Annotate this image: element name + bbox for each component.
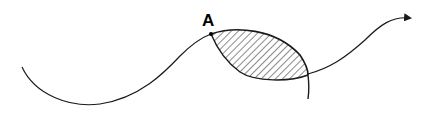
hatched-region — [211, 30, 308, 80]
diagram-canvas: A — [0, 0, 432, 113]
main-curve-right — [308, 18, 410, 74]
main-curve-left — [22, 34, 211, 105]
point-a-label: A — [202, 11, 214, 30]
point-a-marker — [209, 32, 213, 36]
